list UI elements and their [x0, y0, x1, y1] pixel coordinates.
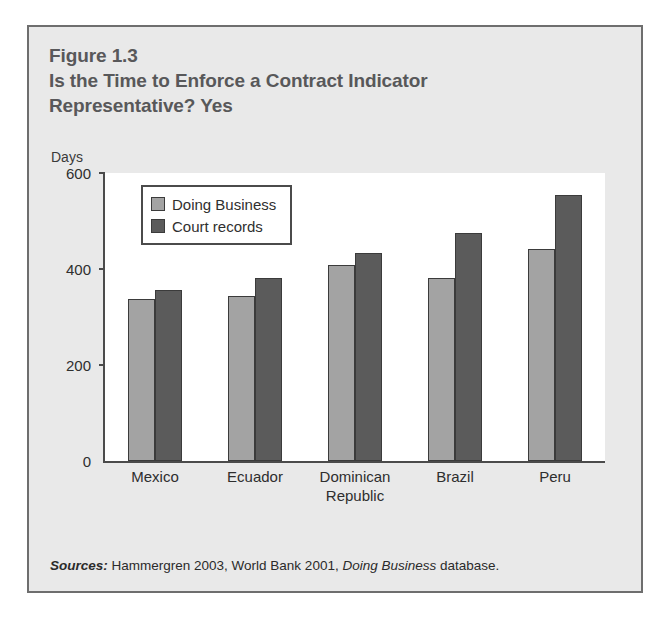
bar — [155, 290, 182, 461]
y-axis-tick-200: 200 — [66, 357, 91, 374]
bar — [455, 233, 482, 461]
x-axis-category-label: Peru — [505, 467, 605, 486]
bar — [528, 249, 555, 461]
figure-title-block: Figure 1.3 Is the Time to Enforce a Cont… — [49, 43, 609, 118]
x-axis-category-label-line: Republic — [305, 486, 405, 505]
x-axis-category-label-line: Peru — [505, 467, 605, 486]
y-axis-tick-600: 600 — [66, 165, 91, 182]
source-note: Sources: Hammergren 2003, World Bank 200… — [50, 558, 624, 573]
x-axis-category-label-line: Brazil — [405, 467, 505, 486]
y-axis-tick-400: 400 — [66, 261, 91, 278]
x-axis-category-label: Mexico — [105, 467, 205, 486]
legend-swatch-icon — [151, 197, 165, 211]
y-axis-tick-labels: 0200400600 — [49, 173, 97, 473]
x-axis-category-label: Brazil — [405, 467, 505, 486]
figure-title-line-2: Representative? Yes — [49, 93, 609, 118]
bar-group — [305, 173, 405, 461]
figure-number: Figure 1.3 — [49, 43, 609, 68]
bar-group — [405, 173, 505, 461]
legend-label: Court records — [172, 218, 263, 235]
bar — [355, 253, 382, 461]
figure-title-line-1: Is the Time to Enforce a Contract Indica… — [49, 68, 609, 93]
bar-group — [505, 173, 605, 461]
chart-region: 0200400600 Doing BusinessCourt records M… — [49, 173, 621, 493]
source-note-prefix: Sources: — [50, 558, 108, 573]
x-axis-category-label: Ecuador — [205, 467, 305, 486]
x-axis-category-label-line: Dominican — [305, 467, 405, 486]
source-note-text-2: database. — [436, 558, 499, 573]
x-axis-category-label-line: Mexico — [105, 467, 205, 486]
y-axis-tick-0: 0 — [83, 453, 91, 470]
x-axis-category-label-line: Ecuador — [205, 467, 305, 486]
source-note-italic-title: Doing Business — [342, 558, 436, 573]
legend-item: Court records — [151, 215, 276, 237]
chart-legend: Doing BusinessCourt records — [141, 185, 292, 245]
bar — [428, 278, 455, 461]
y-axis-unit-label: Days — [51, 149, 83, 165]
figure-card: Figure 1.3 Is the Time to Enforce a Cont… — [27, 25, 643, 593]
source-note-text-1: Hammergren 2003, World Bank 2001, — [108, 558, 343, 573]
legend-item: Doing Business — [151, 193, 276, 215]
bar — [255, 278, 282, 461]
x-axis-category-label: DominicanRepublic — [305, 467, 405, 505]
bar — [128, 299, 155, 461]
plot-area: Doing BusinessCourt records MexicoEcuado… — [103, 173, 605, 463]
legend-swatch-icon — [151, 219, 165, 233]
bar — [228, 296, 255, 461]
bar — [555, 195, 582, 461]
legend-label: Doing Business — [172, 196, 276, 213]
bar — [328, 265, 355, 461]
